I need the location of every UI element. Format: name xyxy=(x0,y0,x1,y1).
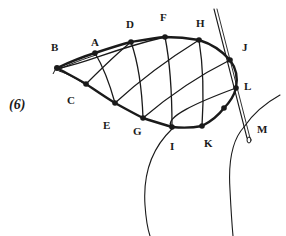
label-d: D xyxy=(126,19,134,30)
label-e: E xyxy=(103,120,110,131)
point-h xyxy=(196,37,202,43)
wing-mesh-diagram xyxy=(0,0,286,236)
body-outline-left xyxy=(145,129,172,236)
mesh-line-e-h xyxy=(115,40,199,103)
label-g: G xyxy=(133,126,142,137)
label-b: B xyxy=(51,42,58,53)
tail-stroke xyxy=(53,70,55,74)
label-j: J xyxy=(242,42,248,53)
mesh-line-h-k xyxy=(199,40,203,126)
needle-eye xyxy=(247,137,251,143)
mesh-line-f-i xyxy=(165,37,172,127)
tip-inner-line-2 xyxy=(59,71,87,86)
figure-label: (6) xyxy=(9,97,25,113)
needle xyxy=(214,9,247,138)
label-a: A xyxy=(91,37,99,48)
label-k: K xyxy=(204,138,213,149)
point-d xyxy=(128,39,134,45)
label-i: I xyxy=(170,141,174,152)
point-l xyxy=(233,85,239,91)
point-j xyxy=(227,57,233,63)
point-g xyxy=(140,115,146,121)
body-outline-right xyxy=(230,127,244,236)
point-f xyxy=(162,34,168,40)
label-f: F xyxy=(160,12,167,23)
label-c: C xyxy=(67,95,75,106)
point-a xyxy=(92,50,98,56)
label-m: M xyxy=(257,124,267,135)
needle-shaft xyxy=(217,9,250,138)
label-h: H xyxy=(196,18,205,29)
point-i xyxy=(169,124,175,130)
point-k xyxy=(199,123,205,129)
point-c xyxy=(83,81,89,87)
point-e xyxy=(112,100,118,106)
mesh-line-b-f xyxy=(60,37,165,68)
label-l: L xyxy=(244,81,251,92)
point-unlabeled xyxy=(221,105,227,111)
